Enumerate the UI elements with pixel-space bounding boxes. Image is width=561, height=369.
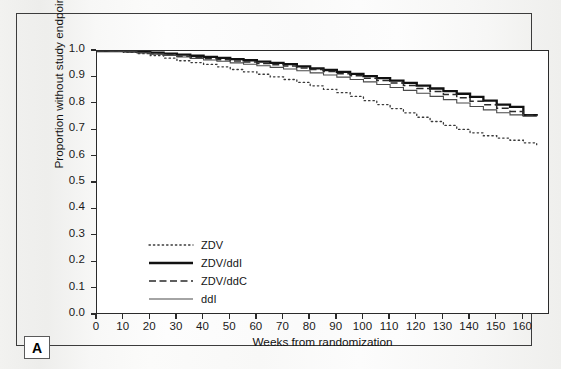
y-tick-mark — [91, 102, 96, 103]
x-axis-label: Weeks from randomization — [96, 335, 549, 349]
legend-line-swatch — [148, 293, 194, 305]
legend-line-swatch — [148, 257, 194, 269]
y-tick-label: 0.7 — [57, 121, 85, 133]
legend-line-swatch — [148, 239, 194, 251]
x-tick-label: 150 — [481, 320, 511, 332]
x-tick-mark — [522, 314, 523, 319]
y-tick-label: 0.3 — [57, 227, 85, 239]
y-tick-mark — [91, 208, 96, 209]
x-tick-label: 160 — [507, 320, 537, 332]
y-tick-label: 0.2 — [57, 253, 85, 265]
y-tick-mark — [91, 76, 96, 77]
x-tick-label: 100 — [347, 320, 377, 332]
x-tick-mark — [202, 314, 203, 319]
x-tick-label: 90 — [321, 320, 351, 332]
x-tick-mark — [149, 314, 150, 319]
y-tick-label: 0.8 — [57, 95, 85, 107]
x-tick-label: 0 — [81, 320, 111, 332]
y-tick-label: 0.6 — [57, 148, 85, 160]
x-tick-mark — [95, 314, 96, 319]
figure-root: Proportion without study endpoint 0.00.1… — [0, 0, 561, 369]
y-tick-mark — [91, 287, 96, 288]
x-tick-label: 80 — [294, 320, 324, 332]
y-tick-mark — [91, 129, 96, 130]
legend-item-label: ZDV — [201, 239, 223, 251]
legend-item: ddI — [148, 290, 247, 308]
x-tick-mark — [495, 314, 496, 319]
x-tick-label: 140 — [454, 320, 484, 332]
x-tick-label: 20 — [134, 320, 164, 332]
x-tick-mark — [282, 314, 283, 319]
panel-label-a: A — [24, 336, 50, 359]
y-tick-mark — [91, 261, 96, 262]
legend-line-swatch — [148, 275, 194, 287]
y-tick-mark — [91, 181, 96, 182]
x-tick-mark — [308, 314, 309, 319]
x-tick-mark — [415, 314, 416, 319]
y-tick-label: 1.0 — [57, 42, 85, 54]
legend-item-label: ddI — [201, 293, 217, 305]
x-tick-mark — [468, 314, 469, 319]
y-tick-mark — [91, 49, 96, 50]
x-tick-label: 50 — [214, 320, 244, 332]
y-tick-label: 0.4 — [57, 200, 85, 212]
y-tick-mark — [91, 234, 96, 235]
legend-item: ZDV/ddC — [148, 272, 247, 290]
x-tick-mark — [229, 314, 230, 319]
legend-item-label: ZDV/ddC — [201, 275, 247, 287]
x-tick-mark — [255, 314, 256, 319]
x-tick-label: 70 — [268, 320, 298, 332]
legend-item: ZDV/ddI — [148, 254, 247, 272]
x-tick-label: 130 — [427, 320, 457, 332]
x-tick-label: 120 — [401, 320, 431, 332]
x-tick-mark — [442, 314, 443, 319]
x-tick-label: 60 — [241, 320, 271, 332]
x-tick-label: 10 — [108, 320, 138, 332]
y-tick-label: 0.0 — [57, 306, 85, 318]
x-tick-mark — [388, 314, 389, 319]
x-tick-mark — [122, 314, 123, 319]
y-tick-label: 0.1 — [57, 280, 85, 292]
survival-curve-ddi — [97, 51, 537, 116]
x-tick-mark — [175, 314, 176, 319]
legend-item-label: ZDV/ddI — [201, 257, 242, 269]
x-tick-label: 30 — [161, 320, 191, 332]
y-tick-mark — [91, 155, 96, 156]
x-tick-mark — [362, 314, 363, 319]
y-tick-label: 0.5 — [57, 174, 85, 186]
x-tick-label: 40 — [188, 320, 218, 332]
x-tick-label: 110 — [374, 320, 404, 332]
figure-card: Proportion without study endpoint 0.00.1… — [16, 13, 532, 346]
chart-legend: ZDVZDV/ddIZDV/ddCddI — [148, 236, 247, 308]
x-tick-mark — [335, 314, 336, 319]
y-tick-label: 0.9 — [57, 68, 85, 80]
legend-item: ZDV — [148, 236, 247, 254]
